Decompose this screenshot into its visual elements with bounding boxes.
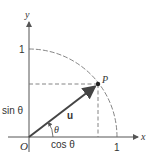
unit-circle-arc xyxy=(29,49,117,137)
angle-theta-label: θ xyxy=(54,124,59,135)
vector-u xyxy=(29,87,95,138)
x-axis-label: x xyxy=(140,131,146,142)
point-p-dot xyxy=(96,82,100,86)
sin-theta-label: sin θ xyxy=(2,105,24,116)
unit-circle-diagram: 1 1 y x O P u θ sin θ cos θ xyxy=(0,0,155,156)
x-tick-one: 1 xyxy=(114,142,120,153)
y-tick-one: 1 xyxy=(19,44,25,55)
point-p-label: P xyxy=(101,74,108,85)
cos-theta-label: cos θ xyxy=(51,139,75,150)
y-axis-label: y xyxy=(24,9,30,20)
vector-u-label: u xyxy=(67,110,73,121)
origin-label: O xyxy=(20,140,28,152)
angle-theta-arc xyxy=(48,122,53,137)
